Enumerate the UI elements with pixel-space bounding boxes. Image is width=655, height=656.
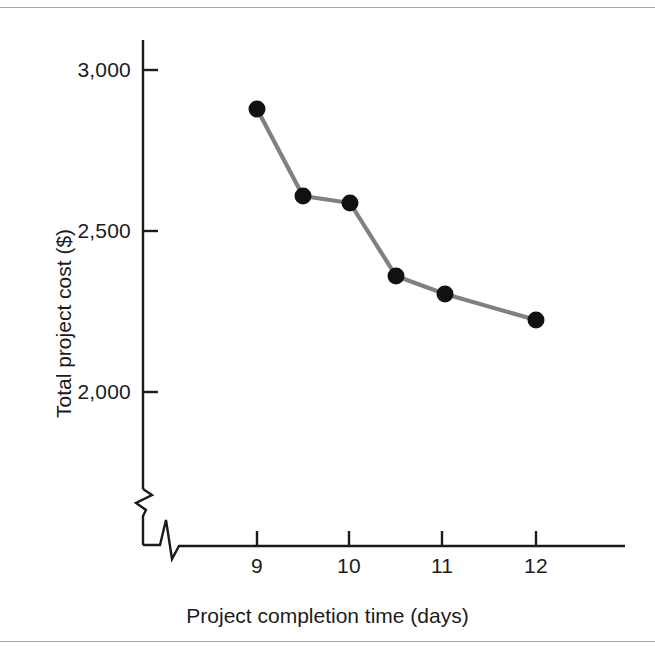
data-point-marker <box>342 195 359 212</box>
data-point-marker <box>249 101 266 118</box>
y-axis-break-icon <box>136 489 152 545</box>
x-axis-title: Project completion time (days) <box>0 604 655 628</box>
data-point-marker <box>528 312 545 329</box>
data-point-marker <box>388 268 405 285</box>
series-line-total-project-cost <box>257 109 536 320</box>
y-axis-title: Total project cost ($) <box>52 229 76 418</box>
x-tick-label-10: 10 <box>319 554 379 578</box>
x-tick-label-12: 12 <box>506 554 566 578</box>
x-tick-label-9: 9 <box>227 554 287 578</box>
y-tick-label-3000: 3,000 <box>0 58 131 82</box>
x-tick-label-11: 11 <box>412 554 472 578</box>
data-point-marker <box>295 188 312 205</box>
data-point-marker <box>437 286 454 303</box>
chart-figure: 3,000 2,500 2,000 9 10 11 12 Project com… <box>0 0 655 656</box>
